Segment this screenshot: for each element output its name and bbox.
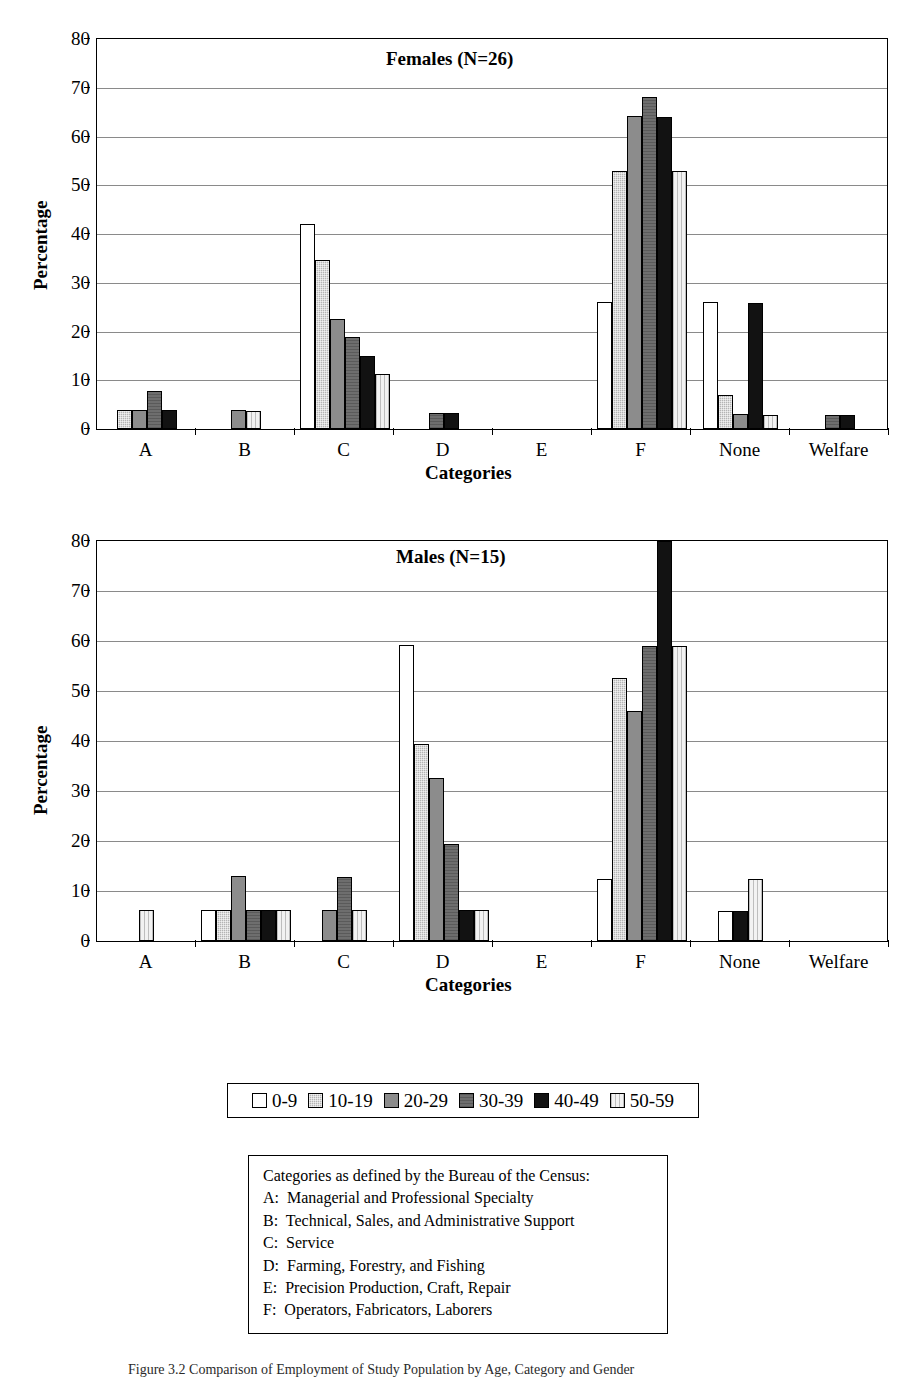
- y-tick-mark: [84, 379, 90, 380]
- x-tick-label-welfare: Welfare: [789, 439, 888, 461]
- gridline: [97, 234, 887, 235]
- legend-label: 20-29: [404, 1091, 448, 1110]
- gridline: [97, 841, 887, 842]
- x-tick-mark: [591, 940, 592, 947]
- caption-category-line: C: Service: [263, 1232, 653, 1254]
- caption-category-line: E: Precision Production, Craft, Repair: [263, 1277, 653, 1299]
- gridline: [97, 591, 887, 592]
- caption-category-line: D: Farming, Forestry, and Fishing: [263, 1255, 653, 1277]
- bar-none-40-49: [748, 303, 763, 429]
- caption-category-line: B: Technical, Sales, and Administrative …: [263, 1210, 653, 1232]
- bar-c-0-9: [300, 224, 315, 429]
- x-tick-label-a: A: [96, 439, 195, 461]
- gridline: [97, 283, 887, 284]
- bar-f-50-59: [672, 646, 687, 941]
- x-tick-label-f: F: [591, 439, 690, 461]
- x-tick-mark: [591, 428, 592, 435]
- bar-f-20-29: [627, 711, 642, 941]
- bar-f-50-59: [672, 171, 687, 429]
- y-tick-mark: [84, 282, 90, 283]
- bar-none-0-9: [703, 302, 718, 429]
- chart-title-males: Males (N=15): [396, 546, 506, 568]
- y-axis-males: 01020304050607080: [40, 540, 90, 940]
- caption-heading: Categories as defined by the Bureau of t…: [263, 1165, 653, 1187]
- x-tick-label-c: C: [294, 439, 393, 461]
- x-tick-label-b: B: [195, 439, 294, 461]
- x-tick-label-welfare: Welfare: [789, 951, 888, 973]
- bar-none-0-9: [718, 911, 733, 941]
- legend-item-20-29: 20-29: [384, 1091, 448, 1110]
- legend-label: 0-9: [272, 1091, 297, 1110]
- legend-label: 10-19: [328, 1091, 372, 1110]
- bar-a-50-59: [139, 910, 154, 941]
- y-tick-mark: [84, 790, 90, 791]
- chart-title-females: Females (N=26): [386, 48, 513, 70]
- bar-a-10-19: [117, 410, 132, 429]
- x-tick-mark: [789, 940, 790, 947]
- legend-item-0-9: 0-9: [252, 1091, 297, 1110]
- caption-category-line: A: Managerial and Professional Specialty: [263, 1187, 653, 1209]
- x-tick-mark: [690, 428, 691, 435]
- x-tick-label-e: E: [492, 951, 591, 973]
- bar-d-40-49: [459, 910, 474, 941]
- x-tick-label-none: None: [690, 951, 789, 973]
- bar-c-30-39: [345, 337, 360, 429]
- x-tick-mark: [393, 428, 394, 435]
- y-tick-mark: [84, 184, 90, 185]
- bar-b-0-9: [201, 910, 216, 941]
- bar-welfare-30-39: [825, 415, 840, 429]
- y-tick-mark: [84, 940, 90, 941]
- y-tick-mark: [84, 540, 90, 541]
- legend-item-10-19: 10-19: [308, 1091, 372, 1110]
- bar-welfare-40-49: [840, 415, 855, 429]
- bar-f-10-19: [612, 171, 627, 429]
- y-tick-mark: [84, 740, 90, 741]
- x-tick-mark: [492, 428, 493, 435]
- bar-f-40-49: [657, 117, 672, 429]
- legend-swatch-icon: [384, 1093, 399, 1108]
- bar-none-20-29: [733, 414, 748, 429]
- bar-a-20-29: [132, 410, 147, 429]
- y-tick-mark: [84, 690, 90, 691]
- gridline: [97, 891, 887, 892]
- x-axis-label-females: Categories: [425, 462, 512, 484]
- legend: 0-910-1920-2930-3940-4950-59: [227, 1083, 699, 1118]
- gridline: [97, 641, 887, 642]
- bar-none-40-49: [733, 911, 748, 941]
- bar-c-50-59: [375, 374, 390, 429]
- legend-item-30-39: 30-39: [459, 1091, 523, 1110]
- bar-d-10-19: [414, 744, 429, 941]
- bar-b-20-29: [231, 410, 246, 429]
- bar-b-10-19: [216, 910, 231, 941]
- x-tick-label-e: E: [492, 439, 591, 461]
- gridline: [97, 791, 887, 792]
- bar-f-40-49: [657, 541, 672, 941]
- bar-b-30-39: [246, 910, 261, 941]
- x-tick-label-c: C: [294, 951, 393, 973]
- bar-d-20-29: [429, 778, 444, 941]
- gridline: [97, 380, 887, 381]
- bar-c-10-19: [315, 260, 330, 429]
- y-tick-mark: [84, 233, 90, 234]
- x-tick-mark: [888, 428, 889, 435]
- x-tick-label-none: None: [690, 439, 789, 461]
- bar-none-50-59: [748, 879, 763, 941]
- legend-swatch-icon: [308, 1093, 323, 1108]
- x-tick-mark: [294, 428, 295, 435]
- chart-females: Percentage Females (N=26) 01020304050607…: [0, 0, 903, 500]
- bar-b-50-59: [276, 910, 291, 941]
- bar-f-0-9: [597, 302, 612, 429]
- gridline: [97, 137, 887, 138]
- legend-swatch-icon: [459, 1093, 474, 1108]
- y-tick-mark: [84, 136, 90, 137]
- bar-c-20-29: [330, 319, 345, 429]
- bar-d-50-59: [474, 910, 489, 941]
- legend-item-40-49: 40-49: [534, 1091, 598, 1110]
- gridline: [97, 185, 887, 186]
- bar-a-40-49: [162, 410, 177, 429]
- bar-f-20-29: [627, 116, 642, 429]
- bar-c-30-39: [337, 877, 352, 941]
- bar-b-40-49: [261, 910, 276, 941]
- x-axis-label-males: Categories: [425, 974, 512, 996]
- caption-category-line: F: Operators, Fabricators, Laborers: [263, 1299, 653, 1321]
